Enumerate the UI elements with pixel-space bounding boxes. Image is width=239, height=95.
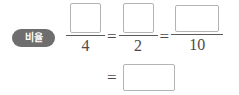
fraction-numerator-1 bbox=[66, 3, 105, 35]
fraction-term-3: 10 bbox=[171, 5, 223, 54]
category-label-ratio: 비율 bbox=[12, 29, 55, 47]
fraction-denominator-1: 4 bbox=[66, 36, 105, 55]
ratio-worksheet: 비율 4 = 2 = 10 bbox=[0, 0, 239, 95]
fraction-term-1: 4 bbox=[66, 3, 105, 55]
fraction-numerator-2 bbox=[119, 3, 158, 35]
answer-box-numerator-2[interactable] bbox=[123, 3, 154, 33]
answer-box-final[interactable] bbox=[123, 64, 175, 91]
answer-box-numerator-1[interactable] bbox=[70, 3, 101, 33]
equation-row-bottom: = bbox=[105, 60, 175, 95]
equation-row-top: 4 = 2 = 10 bbox=[66, 0, 223, 58]
fraction-numerator-3 bbox=[171, 5, 223, 34]
fraction-denominator-2: 2 bbox=[119, 36, 158, 55]
equals-sign-1: = bbox=[105, 28, 119, 45]
fraction-denominator-3: 10 bbox=[171, 35, 223, 54]
equals-sign-2: = bbox=[158, 28, 172, 45]
answer-box-numerator-3[interactable] bbox=[175, 5, 219, 32]
fraction-term-2: 2 bbox=[119, 3, 158, 55]
equals-sign-3: = bbox=[105, 69, 119, 86]
